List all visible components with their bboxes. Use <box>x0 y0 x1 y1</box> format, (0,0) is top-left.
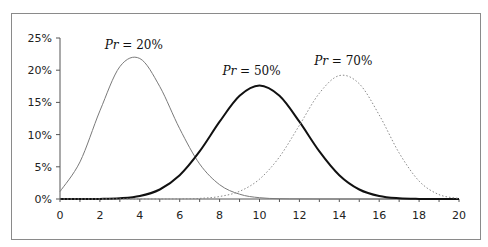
x-tick-label: 18 <box>412 209 426 222</box>
x-tick-label: 20 <box>452 209 466 222</box>
series-label-2: Pr = 50% <box>221 64 280 78</box>
x-tick-label: 8 <box>216 209 223 222</box>
y-tick-label: 10% <box>28 129 52 142</box>
y-tick-label: 20% <box>28 64 52 77</box>
series-labels: Pr = 20%Pr = 50%Pr = 70% <box>104 38 373 78</box>
series-line-2 <box>60 86 459 200</box>
series-group <box>60 57 459 199</box>
y-tick-label: 15% <box>28 96 52 109</box>
x-tick-label: 14 <box>332 209 346 222</box>
y-tick-label: 25% <box>28 32 52 45</box>
x-tick-label: 4 <box>136 209 143 222</box>
series-label-1: Pr = 20% <box>104 38 163 52</box>
y-tick-label: 0% <box>35 193 52 206</box>
x-tick-label: 2 <box>96 209 103 222</box>
series-line-3 <box>60 75 459 199</box>
x-tick-label: 6 <box>176 209 183 222</box>
x-tick-label: 16 <box>372 209 386 222</box>
x-tick-label: 12 <box>292 209 306 222</box>
series-label-3: Pr = 70% <box>313 54 372 68</box>
series-line-1 <box>60 57 459 199</box>
y-tick-label: 5% <box>35 161 52 174</box>
x-tick-label: 0 <box>57 209 64 222</box>
binomial-line-chart: 0%5%10%15%20%25%02468101214161820 Pr = 2… <box>0 0 488 247</box>
x-tick-label: 10 <box>253 209 267 222</box>
